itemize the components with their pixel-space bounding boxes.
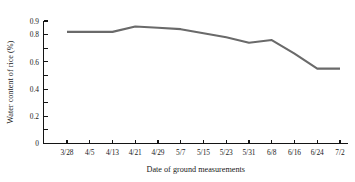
- y-tick-label: 0: [35, 139, 39, 148]
- x-axis-title: Date of ground measurements: [147, 165, 245, 174]
- line-chart: 00.20.40.60.80.93/284/54/134/214/295/75/…: [0, 0, 355, 182]
- data-series-line: [67, 26, 340, 68]
- y-axis-title: Water content of rice (%): [6, 40, 15, 123]
- x-tick-label: 4/29: [151, 148, 164, 157]
- x-tick-label: 4/21: [129, 148, 142, 157]
- x-tick-label: 4/13: [106, 148, 119, 157]
- chart-figure: 00.20.40.60.80.93/284/54/134/214/295/75/…: [0, 0, 355, 182]
- x-tick-label: 5/15: [197, 148, 210, 157]
- x-tick-label: 3/28: [60, 148, 73, 157]
- x-tick-label: 5/31: [242, 148, 255, 157]
- x-tick-label: 6/24: [311, 148, 324, 157]
- y-tick-label: 0.9: [30, 17, 40, 26]
- y-tick-label: 0.8: [30, 30, 40, 39]
- x-tick-label: 5/23: [220, 148, 233, 157]
- y-tick-label: 0.6: [30, 58, 40, 67]
- y-tick-label: 0.4: [30, 85, 40, 94]
- y-tick-label: 0.2: [30, 112, 40, 121]
- x-tick-label: 6/16: [288, 148, 301, 157]
- x-tick-label: 7/2: [335, 148, 345, 157]
- x-tick-label: 4/5: [85, 148, 95, 157]
- x-tick-label: 5/7: [176, 148, 186, 157]
- x-tick-label: 6/8: [267, 148, 277, 157]
- plot-area: 00.20.40.60.80.93/284/54/134/214/295/75/…: [6, 17, 348, 174]
